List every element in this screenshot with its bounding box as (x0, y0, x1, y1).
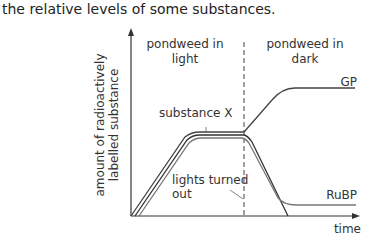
y-axis-arrow-icon (128, 28, 134, 36)
y-axis-label: amount of radioactively (93, 54, 107, 197)
substance-x-label: substance X (159, 106, 232, 120)
y-axis-label-2: labelled substance (107, 69, 121, 182)
rubp-label: RuBP (326, 188, 357, 202)
lights-label: lights turned (172, 173, 248, 187)
lights-label-2: out (172, 187, 192, 201)
x-axis-label: time (334, 222, 361, 236)
diagram: pondweed in light pondweed in dark GP Ru… (0, 0, 378, 249)
region-dark-label: pondweed in (266, 37, 343, 51)
x-axis-arrow-icon (352, 213, 360, 219)
gp-label: GP (340, 75, 357, 89)
lights-leader-line (230, 190, 243, 199)
region-light-label-2: light (172, 52, 199, 66)
region-dark-label-2: dark (292, 52, 319, 66)
region-light-label: pondweed in (146, 37, 223, 51)
